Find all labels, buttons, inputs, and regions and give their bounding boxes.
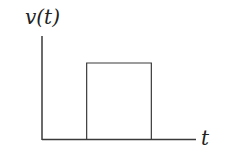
pulse-waveform	[87, 63, 152, 140]
y-axis-label: v(t)	[25, 5, 60, 29]
x-axis-label: t	[201, 126, 210, 150]
pulse-diagram: v(t) t	[0, 0, 237, 157]
